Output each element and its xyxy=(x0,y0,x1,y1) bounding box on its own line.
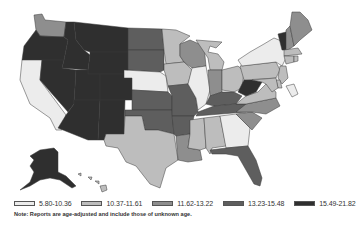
state-CT xyxy=(284,56,294,64)
legend-item-3: 11.62-13.22 xyxy=(152,200,213,207)
state-IN xyxy=(208,70,222,96)
state-ND xyxy=(128,28,164,50)
legend-swatch xyxy=(81,201,102,206)
legend-label: 13.23-15.48 xyxy=(248,200,284,207)
legend-label: 11.62-13.22 xyxy=(177,200,213,207)
legend-item-4: 13.23-15.48 xyxy=(223,200,284,207)
map-legend: 5.80-10.36 10.37-11.61 11.62-13.22 13.23… xyxy=(14,198,340,208)
legend-item-2: 10.37-11.61 xyxy=(81,200,142,207)
legend-swatch xyxy=(152,201,173,206)
state-MT xyxy=(74,22,128,52)
map-note: Note: Reports are age-adjusted and inclu… xyxy=(14,211,192,217)
state-DC xyxy=(286,84,298,97)
us-choropleth-map xyxy=(0,0,342,200)
state-FL xyxy=(210,146,262,186)
state-SD xyxy=(128,50,164,72)
legend-label: 5.80-10.36 xyxy=(39,200,71,207)
state-ME xyxy=(290,12,312,46)
legend-label: 15.49-21.82 xyxy=(319,200,355,207)
legend-swatch xyxy=(223,201,244,206)
state-RI xyxy=(294,56,298,62)
state-AK xyxy=(20,148,76,190)
legend-item-1: 5.80-10.36 xyxy=(14,200,71,207)
state-IA xyxy=(164,62,192,86)
state-NY xyxy=(238,38,286,66)
legend-swatch xyxy=(14,201,35,206)
legend-label: 10.37-11.61 xyxy=(106,200,142,207)
state-MS xyxy=(188,118,206,150)
state-WY xyxy=(88,52,128,74)
state-HI xyxy=(78,173,107,192)
state-WA xyxy=(34,14,66,37)
legend-swatch xyxy=(294,201,315,206)
legend-item-5: 15.49-21.82 xyxy=(294,200,355,207)
state-KS xyxy=(132,90,172,110)
state-UT xyxy=(74,70,100,104)
